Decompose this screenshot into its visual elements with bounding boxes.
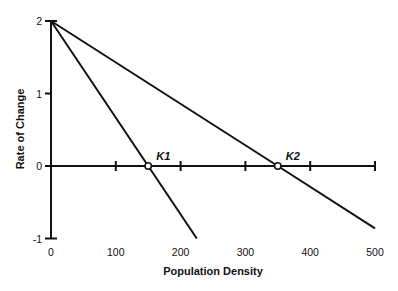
x-tick-label: 400 bbox=[301, 246, 319, 258]
annotation-label-k1: K1 bbox=[156, 150, 170, 162]
series-lines bbox=[51, 21, 375, 239]
y-tick-label: 2 bbox=[36, 15, 42, 27]
x-axis-title: Population Density bbox=[163, 265, 264, 277]
x-tick-label: 100 bbox=[107, 246, 125, 258]
open-circle-marker-k1 bbox=[145, 163, 151, 169]
line-chart: Population Density Rate of Change -10120… bbox=[0, 0, 398, 291]
y-axis-title: Rate of Change bbox=[14, 89, 26, 170]
y-tick-label: 0 bbox=[36, 160, 42, 172]
y-tick-label: -1 bbox=[33, 233, 42, 245]
x-tick-label: 300 bbox=[237, 246, 255, 258]
y-tick-label: 1 bbox=[36, 88, 42, 100]
x-tick-label: 200 bbox=[172, 246, 190, 258]
labels: Population Density Rate of Change -10120… bbox=[14, 15, 384, 277]
x-tick-label: 0 bbox=[48, 246, 54, 258]
axes bbox=[45, 21, 375, 239]
open-circle-marker-k2 bbox=[275, 163, 281, 169]
x-tick-label: 500 bbox=[366, 246, 384, 258]
series-line-2 bbox=[51, 21, 375, 228]
annotation-label-k2: K2 bbox=[286, 150, 300, 162]
series-line-1 bbox=[51, 21, 197, 239]
